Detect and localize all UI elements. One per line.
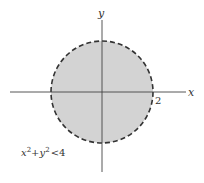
x-axis-label: x <box>188 86 195 99</box>
tick-label-2: 2 <box>155 95 161 106</box>
disk-diagram: x y 2 x2+y2<4 <box>0 0 204 183</box>
y-axis-label: y <box>97 7 105 20</box>
inequality-label: x2+y2<4 <box>21 146 65 158</box>
